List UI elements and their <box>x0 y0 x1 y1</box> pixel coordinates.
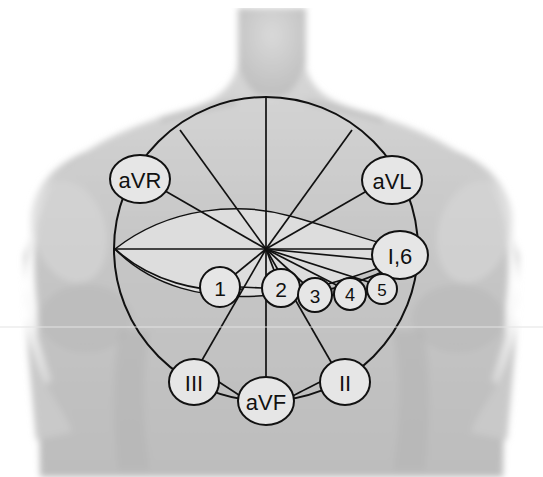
chain-V1-V2 <box>240 287 262 288</box>
node-aVL[interactable]: aVL <box>362 156 422 204</box>
figure-canvas: aVR aVL I,6 III aVF II <box>0 0 543 477</box>
node-aVF-label: aVF <box>246 390 286 415</box>
node-V2[interactable]: 2 <box>262 269 300 307</box>
node-V4-label: 4 <box>345 285 355 305</box>
node-V1-label: 1 <box>214 277 226 300</box>
node-aVF[interactable]: aVF <box>238 377 294 425</box>
node-V5-label: 5 <box>377 281 386 300</box>
node-I6[interactable]: I,6 <box>372 231 428 279</box>
node-V3[interactable]: 3 <box>298 278 332 312</box>
node-aVR-label: aVR <box>119 168 162 193</box>
ecg-lead-diagram: aVR aVL I,6 III aVF II <box>0 0 543 477</box>
node-III[interactable]: III <box>169 359 219 405</box>
upper-background <box>0 0 543 8</box>
node-II[interactable]: II <box>320 359 370 405</box>
node-V5[interactable]: 5 <box>367 274 397 304</box>
node-V2-label: 2 <box>275 278 287 301</box>
node-aVR[interactable]: aVR <box>110 155 170 203</box>
right-axilla-shadow <box>412 284 504 352</box>
node-I6-label: I,6 <box>388 244 412 269</box>
node-III-label: III <box>185 371 203 396</box>
node-V1[interactable]: 1 <box>200 267 240 307</box>
node-V3-label: 3 <box>310 286 321 307</box>
node-aVL-label: aVL <box>372 169 411 194</box>
node-V4[interactable]: 4 <box>334 278 366 310</box>
node-II-label: II <box>339 371 351 396</box>
